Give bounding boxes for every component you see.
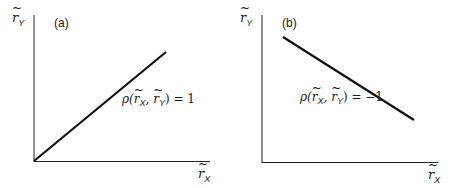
panel-b-negative-line <box>283 37 414 120</box>
panel-b-correlation-annotation: ρ(rX, rY) = −1 <box>300 90 383 106</box>
panel-a-x-axis-label: rX <box>198 166 210 184</box>
panel-b-tag: (b) <box>282 16 297 30</box>
panel-b-y-axis-label: rY <box>240 10 252 28</box>
panel-a-y-axis-label: rY <box>12 10 24 28</box>
panel-a-correlation-annotation: ρ(rX, rY) = 1 <box>122 92 195 108</box>
panel-a-tag: (a) <box>54 16 69 30</box>
panel-b-x-axis-label: rX <box>428 167 440 185</box>
